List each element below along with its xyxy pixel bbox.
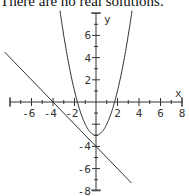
y-tick-label: -4 — [78, 140, 92, 153]
y-tick-label: -8 — [78, 185, 91, 196]
x-tick-label: 6 — [157, 107, 164, 120]
y-tick-label: 2 — [84, 74, 91, 87]
x-tick-label: -6 — [22, 107, 35, 120]
graph: -6-4-22468642-4-6-8 x y — [0, 0, 189, 196]
x-tick-label: 8 — [179, 107, 186, 120]
y-axis-label: y — [104, 13, 111, 26]
y-tick-label: 6 — [84, 29, 91, 42]
x-tick-label: 4 — [136, 107, 143, 120]
x-tick-label: 2 — [114, 107, 121, 120]
y-tick-label: -6 — [78, 163, 91, 176]
y-tick-label: 4 — [84, 52, 91, 65]
x-tick-label: -4 — [44, 107, 58, 120]
x-axis-label: x — [175, 87, 182, 100]
x-tick-label: -2 — [65, 107, 78, 120]
